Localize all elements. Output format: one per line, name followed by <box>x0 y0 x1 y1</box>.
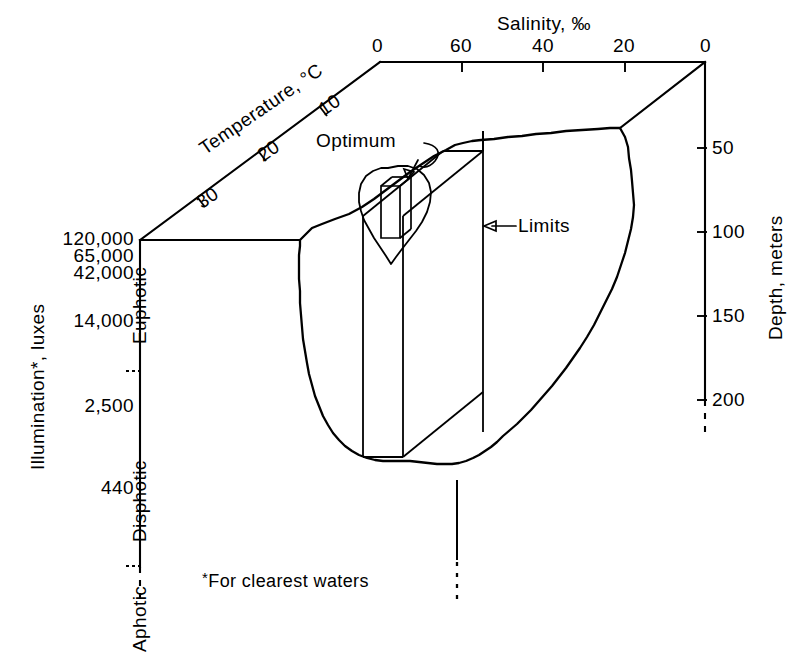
salinity-tick-label-60: 60 <box>450 36 472 55</box>
illumination-value-440: 440 <box>36 478 134 497</box>
depth-tick-label-50: 50 <box>712 138 734 157</box>
salinity-tick-label-0: 0 <box>700 36 711 55</box>
zone-label-euphotic: Euphotic <box>130 267 149 344</box>
depth-tick-label-100: 100 <box>712 222 745 241</box>
figure-root: Salinity, ‰ 0 60 40 20 0 Temperature, °C… <box>0 0 793 665</box>
temperature-tick-label-0: 0 <box>372 36 383 55</box>
salinity-tick-label-20: 20 <box>613 36 635 55</box>
salinity-tick-label-40: 40 <box>532 36 554 55</box>
depth-tick-label-200: 200 <box>712 390 745 409</box>
salinity-axis-title: Salinity, ‰ <box>497 14 591 33</box>
zone-label-aphotic: Aphotic <box>130 586 149 652</box>
illumination-value-42000: 42,000 <box>36 263 134 282</box>
footnote-text: For clearest waters <box>208 571 369 591</box>
illumination-value-14000: 14,000 <box>36 311 134 330</box>
footnote: *For clearest waters <box>202 570 369 590</box>
limits-envelope <box>299 128 634 464</box>
optimum-box-top-left <box>381 177 392 186</box>
figure-drawing <box>0 0 793 665</box>
depth-axis-title: Depth, meters <box>766 215 785 340</box>
perspective-edge <box>620 62 705 128</box>
prism-top-right-edge <box>403 151 483 216</box>
depth-tick-label-150: 150 <box>712 306 745 325</box>
zone-label-disphotic: Disphotic <box>130 460 149 542</box>
optimum-region-outline <box>359 166 431 264</box>
prism-bottom-back-edge <box>403 392 483 457</box>
optimum-box-bottom-back <box>400 229 411 238</box>
optimum-label: Optimum <box>316 131 396 150</box>
illumination-value-2500: 2,500 <box>36 396 134 415</box>
limits-label: Limits <box>518 216 570 235</box>
